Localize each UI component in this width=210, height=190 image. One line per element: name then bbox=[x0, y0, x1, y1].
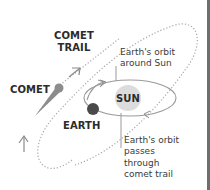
earth-label: EARTH bbox=[63, 120, 101, 132]
comet-trail-label-line2: TRAIL bbox=[54, 42, 94, 54]
earth-orbit-note-line2: around Sun bbox=[120, 58, 175, 69]
crossing-note: Earth's orbit passes through comet trail bbox=[124, 135, 179, 180]
earth-orbit-note: Earth's orbit around Sun bbox=[120, 47, 175, 70]
crossing-note-line4: comet trail bbox=[124, 169, 179, 180]
trail-arrow-lower-icon bbox=[19, 136, 28, 152]
earth-orbit-note-line1: Earth's orbit bbox=[120, 47, 175, 58]
page-edge-bar bbox=[207, 0, 210, 190]
comet-label: COMET bbox=[10, 84, 50, 96]
comet-trail-label: COMET TRAIL bbox=[54, 30, 94, 53]
comet-earth-orbit-diagram: COMET TRAIL COMET SUN EARTH Earth's orbi… bbox=[0, 0, 210, 190]
crossing-note-line2: passes bbox=[124, 146, 179, 157]
crossing-note-line1: Earth's orbit bbox=[124, 135, 179, 146]
sun-label: SUN bbox=[116, 93, 140, 105]
comet-trail-label-line1: COMET bbox=[54, 30, 94, 42]
crossing-note-line3: through bbox=[124, 158, 179, 169]
earth-circle bbox=[87, 103, 99, 115]
trail-arrow-upper-icon bbox=[69, 68, 80, 77]
